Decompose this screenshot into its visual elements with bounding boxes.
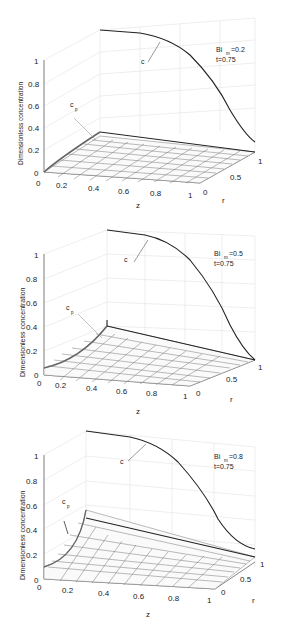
bi-label: Bi (216, 46, 223, 53)
x-axis-label: z (146, 610, 150, 619)
c-label: c (120, 458, 124, 465)
surface-plot: 0 0.2 0.4 0.6 0.8 1 0 0.2 0.4 0.6 0.8 1 … (0, 210, 281, 419)
svg-text:0.4: 0.4 (86, 384, 98, 393)
bi-value: =0.5 (229, 250, 243, 257)
y-ticks: 0 0.2 0.4 0.6 0.8 1 (26, 251, 39, 380)
svg-text:0: 0 (196, 389, 201, 398)
bi-label: Bi (214, 453, 221, 460)
svg-text:0: 0 (37, 583, 42, 592)
cp-arrow-icon (64, 521, 68, 534)
chart-panel-2: 0 0.2 0.4 0.6 0.8 1 0 0.2 0.4 0.6 0.8 1 … (0, 210, 281, 419)
bi-value: =0.8 (229, 453, 243, 460)
svg-text:0.8: 0.8 (146, 389, 158, 398)
svg-text:0.2: 0.2 (26, 347, 38, 356)
svg-text:0.6: 0.6 (26, 299, 38, 308)
svg-text:0.6: 0.6 (26, 502, 38, 511)
c-label: c (141, 58, 145, 65)
z-ticks: 0 0.2 0.4 0.6 0.8 1 (36, 179, 193, 200)
svg-text:0.2: 0.2 (56, 181, 68, 190)
c-arrow-icon (128, 444, 146, 461)
svg-text:1: 1 (207, 596, 212, 605)
c-label: c (124, 256, 128, 263)
svg-text:0.4: 0.4 (88, 184, 100, 193)
svg-text:0.8: 0.8 (26, 275, 38, 284)
chart-panel-1: 0 0.2 0.4 0.6 0.8 1 0 0.2 0.4 0.6 0.8 1 … (0, 0, 281, 209)
svg-text:0.8: 0.8 (150, 189, 162, 198)
svg-text:1: 1 (34, 452, 39, 461)
svg-text:0.5: 0.5 (230, 173, 242, 182)
bi-label: Bi (214, 250, 221, 257)
svg-text:0.6: 0.6 (118, 187, 130, 196)
y-ticks: 0 0.2 0.4 0.6 0.8 1 (26, 452, 39, 585)
r-axis-label: r (230, 395, 233, 404)
svg-text:0.6: 0.6 (28, 102, 40, 111)
svg-text:0.4: 0.4 (98, 589, 110, 598)
svg-text:0: 0 (37, 379, 42, 388)
c-arrow-icon (148, 42, 160, 62)
svg-text:0.2: 0.2 (26, 551, 38, 560)
chart-panel-3: 0 0.2 0.4 0.6 0.8 1 0 0.2 0.4 0.6 0.8 1 … (0, 417, 281, 626)
svg-text:0.4: 0.4 (28, 124, 40, 133)
y-axis-label: Dimensionless concentration (19, 287, 26, 377)
svg-text:0.4: 0.4 (26, 323, 38, 332)
svg-text:0: 0 (36, 179, 41, 188)
cp-subscript: p (75, 107, 78, 112)
cp-label: c (62, 498, 66, 505)
y-ticks: 0 0.2 0.4 0.6 0.8 1 (28, 57, 40, 178)
svg-text:1: 1 (34, 251, 39, 260)
svg-text:1: 1 (188, 191, 193, 200)
svg-text:0.8: 0.8 (26, 477, 38, 486)
svg-text:0: 0 (203, 188, 208, 197)
cp-surface (44, 136, 255, 183)
svg-text:0.8: 0.8 (28, 80, 40, 89)
cp-label: c (70, 101, 74, 108)
svg-text:0.6: 0.6 (133, 592, 145, 601)
cp-arrow-icon (74, 118, 96, 140)
svg-text:1: 1 (34, 57, 39, 66)
svg-text:1: 1 (183, 392, 188, 401)
svg-text:0: 0 (34, 169, 39, 178)
y-axis-label: Dimensionless concentration (17, 82, 24, 165)
svg-text:0: 0 (221, 588, 226, 597)
bi-value: =0.2 (231, 46, 245, 53)
y-axis-label: Dimensionless concentration (19, 490, 26, 580)
c-arrow-icon (134, 240, 148, 262)
svg-text:0.8: 0.8 (168, 594, 180, 603)
cp-arrow-icon (78, 314, 102, 338)
r-axis-label: r (222, 196, 225, 205)
surface-plot: 0 0.2 0.4 0.6 0.8 1 0 0.2 0.4 0.6 0.8 1 … (0, 0, 281, 209)
svg-text:0.2: 0.2 (28, 146, 40, 155)
t-label: t=0.75 (214, 463, 234, 470)
svg-text:1: 1 (260, 560, 265, 569)
x-axis-label: z (136, 201, 140, 209)
svg-text:0.2: 0.2 (55, 381, 67, 390)
cp-surface (44, 326, 255, 386)
cp-label: c (66, 304, 70, 311)
svg-text:0.5: 0.5 (226, 375, 238, 384)
svg-text:0.4: 0.4 (26, 526, 38, 535)
svg-text:0.5: 0.5 (240, 575, 252, 584)
surface-plot: 0 0.2 0.4 0.6 0.8 1 0 0.2 0.4 0.6 0.8 1 … (0, 417, 281, 626)
x-axis-label: z (136, 407, 140, 416)
cp-subscript: p (67, 504, 70, 509)
svg-text:1: 1 (258, 363, 263, 372)
svg-text:0.2: 0.2 (62, 586, 74, 595)
svg-text:1: 1 (258, 157, 263, 166)
t-label: t=0.75 (214, 260, 234, 267)
cp-subscript: p (71, 310, 74, 315)
r-axis-label: r (252, 596, 255, 605)
svg-text:0.6: 0.6 (116, 387, 128, 396)
t-label: t=0.75 (216, 56, 236, 63)
